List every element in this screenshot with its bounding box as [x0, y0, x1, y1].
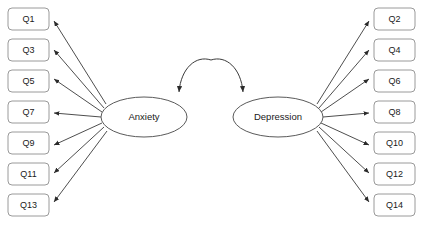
indicator-q4[interactable]: Q4 [374, 39, 415, 61]
indicator-label-q11: Q11 [20, 169, 36, 179]
loading-path-depression-q10 [321, 123, 369, 145]
covariance-arc-right [211, 59, 243, 92]
indicator-q10[interactable]: Q10 [374, 132, 415, 154]
indicator-q3[interactable]: Q3 [8, 39, 49, 61]
indicator-q7[interactable]: Q7 [8, 101, 49, 123]
indicator-label-q2: Q2 [388, 14, 400, 24]
covariance-arc-left [179, 59, 211, 92]
indicator-label-q1: Q1 [22, 14, 34, 24]
loading-path-depression-q6 [321, 79, 369, 112]
indicator-label-q6: Q6 [388, 76, 400, 86]
indicator-label-q10: Q10 [386, 138, 403, 148]
indicator-q1[interactable]: Q1 [8, 8, 49, 30]
right-indicator-group: Q2 Q4 Q6 Q8 Q10 Q12 [374, 8, 415, 216]
indicator-label-q5: Q5 [22, 76, 34, 86]
indicator-label-q8: Q8 [388, 107, 400, 117]
loading-path-depression-q4 [319, 50, 369, 108]
indicator-q2[interactable]: Q2 [374, 8, 415, 30]
indicator-label-q13: Q13 [20, 200, 37, 210]
loading-paths-anxiety [54, 21, 107, 202]
indicator-q6[interactable]: Q6 [374, 70, 415, 92]
loading-path-anxiety-q1 [54, 21, 106, 104]
indicator-label-q4: Q4 [388, 45, 400, 55]
indicator-q5[interactable]: Q5 [8, 70, 49, 92]
indicator-q8[interactable]: Q8 [374, 101, 415, 123]
loading-path-anxiety-q5 [54, 79, 102, 112]
indicator-q14[interactable]: Q14 [374, 194, 415, 216]
latent-label-depression: Depression [254, 111, 302, 122]
diagram-canvas: Q1 Q3 Q5 Q7 Q9 Q11 [0, 0, 421, 230]
loading-path-depression-q8 [323, 113, 369, 117]
covariance-arrow [179, 59, 243, 92]
indicator-label-q12: Q12 [386, 169, 403, 179]
indicator-label-q9: Q9 [22, 138, 34, 148]
indicator-q9[interactable]: Q9 [8, 132, 49, 154]
sem-path-diagram: Q1 Q3 Q5 Q7 Q9 Q11 [0, 0, 421, 230]
loading-path-anxiety-q7 [54, 113, 101, 117]
indicator-q13[interactable]: Q13 [8, 194, 49, 216]
latent-label-anxiety: Anxiety [128, 111, 159, 122]
loading-paths-depression [317, 21, 369, 202]
latent-depression[interactable]: Depression [233, 97, 323, 137]
latent-anxiety[interactable]: Anxiety [101, 97, 187, 137]
indicator-q12[interactable]: Q12 [374, 163, 415, 185]
indicator-q11[interactable]: Q11 [8, 163, 49, 185]
indicator-label-q7: Q7 [22, 107, 34, 117]
loading-path-anxiety-q3 [54, 50, 104, 108]
loading-path-anxiety-q9 [54, 123, 102, 145]
left-indicator-group: Q1 Q3 Q5 Q7 Q9 Q11 [8, 8, 49, 216]
indicator-label-q14: Q14 [386, 200, 403, 210]
indicator-label-q3: Q3 [22, 45, 34, 55]
loading-path-depression-q2 [317, 21, 369, 104]
